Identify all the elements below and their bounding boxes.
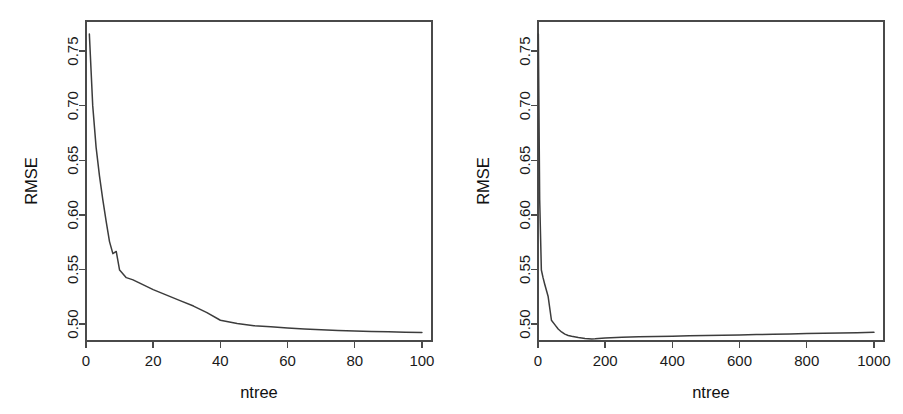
x-tick-label: 20 (145, 352, 162, 369)
y-tick-label: 0.75 (65, 36, 82, 65)
x-tick-label: 800 (794, 352, 819, 369)
x-axis-title: ntree (240, 383, 278, 401)
x-tick-label: 40 (212, 352, 229, 369)
right-panel: 0.500.550.600.650.700.750200400600800100… (452, 0, 903, 414)
y-tick-label: 0.70 (65, 91, 82, 120)
x-axis-title: ntree (692, 383, 730, 401)
x-tick-label: 400 (660, 352, 685, 369)
y-axis-title: RMSE (22, 157, 40, 205)
x-tick-label: 100 (409, 352, 434, 369)
y-tick-label: 0.50 (517, 309, 534, 338)
x-tick-label: 1000 (857, 352, 890, 369)
y-tick-label: 0.60 (65, 200, 82, 229)
y-tick-label: 0.75 (517, 36, 534, 65)
x-tick-label: 0 (82, 352, 90, 369)
rmse-curve (538, 34, 874, 339)
y-tick-label: 0.60 (517, 200, 534, 229)
y-tick-label: 0.65 (517, 146, 534, 175)
left-panel: 0.500.550.600.650.700.75020406080100ntre… (0, 0, 451, 414)
rmse-curve (89, 34, 422, 332)
left-panel-plot: 0.500.550.600.650.700.75020406080100ntre… (0, 0, 451, 414)
x-tick-label: 200 (593, 352, 618, 369)
plot-frame (86, 21, 432, 341)
plot-frame (538, 21, 884, 341)
y-axis-title: RMSE (474, 157, 492, 205)
rmse-vs-ntree-figure: 0.500.550.600.650.700.75020406080100ntre… (0, 0, 903, 414)
y-tick-label: 0.55 (65, 255, 82, 284)
x-tick-label: 0 (534, 352, 542, 369)
x-tick-label: 600 (727, 352, 752, 369)
right-panel-plot: 0.500.550.600.650.700.750200400600800100… (452, 0, 903, 414)
x-tick-label: 60 (279, 352, 296, 369)
y-tick-label: 0.70 (517, 91, 534, 120)
y-tick-label: 0.65 (65, 146, 82, 175)
x-tick-label: 80 (346, 352, 363, 369)
y-tick-label: 0.55 (517, 255, 534, 284)
y-tick-label: 0.50 (65, 309, 82, 338)
